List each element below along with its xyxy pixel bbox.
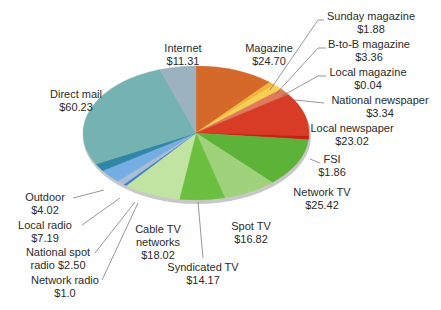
slice-label-cable-tv-networks: Cable TV [135,223,181,235]
leader-line-local-magazine [282,76,326,96]
slice-label-local-newspaper: $23.02 [335,135,369,147]
slice-label-fsi: $1.86 [318,166,346,178]
slice-label-spot-tv: $16.82 [234,233,268,245]
slice-label-local-radio: $7.19 [31,232,59,244]
slice-label-syndicated-tv: Syndicated TV [167,261,239,273]
slice-label-internet: Internet [164,42,201,54]
slice-label-national-newspaper: National newspaper [331,94,429,106]
leader-line-outdoor [73,190,104,198]
slice-label-direct-mail: Direct mail [50,88,102,100]
slice-label-local-newspaper: Local newspaper [310,122,394,134]
slice-label-b-to-b-magazine: B-to-B magazine [328,38,410,50]
slice-label-cable-tv-networks: networks [136,236,181,248]
slice-label-sunday-magazine: Sunday magazine [327,10,415,22]
slice-label-outdoor: $4.02 [31,204,59,216]
slice-label-network-tv: $25.42 [305,199,339,211]
pie-slices-layer [83,66,309,200]
leader-line-network-radio [102,203,138,280]
slice-label-national-newspaper: $3.34 [366,107,394,119]
slice-label-local-magazine: $0.04 [354,79,382,91]
slice-label-network-tv: Network TV [293,186,351,198]
leader-line-syndicated-tv [198,202,203,258]
slice-label-direct-mail: $60.23 [59,101,93,113]
leader-line-fsi [310,159,320,163]
slice-label-cable-tv-networks: $18.02 [141,249,175,261]
slice-label-network-radio: Network radio [31,274,99,286]
slice-label-outdoor: Outdoor [25,191,65,203]
leader-line-national-spot-radio [95,202,135,253]
slice-label-magazine: $24.70 [252,55,286,67]
leader-line-local-radio [82,198,120,225]
slice-label-national-spot-radio: National spot [26,246,90,258]
slice-label-magazine: Magazine [245,42,293,54]
slice-label-fsi: FSI [323,153,340,165]
slice-label-local-radio: Local radio [18,219,72,231]
pie-chart: Magazine$24.70Sunday magazine$1.88B-to-B… [0,0,441,310]
slice-label-b-to-b-magazine: $3.36 [355,51,383,63]
slice-label-network-radio: $1.0 [54,287,75,299]
slice-label-national-spot-radio: radio $2.50 [30,259,85,271]
slice-label-syndicated-tv: $14.17 [186,274,220,286]
slice-label-sunday-magazine: $1.88 [357,23,385,35]
slice-label-spot-tv: Spot TV [231,220,271,232]
slice-label-internet: $11.31 [167,55,200,67]
slice-label-local-magazine: Local magazine [329,66,406,78]
